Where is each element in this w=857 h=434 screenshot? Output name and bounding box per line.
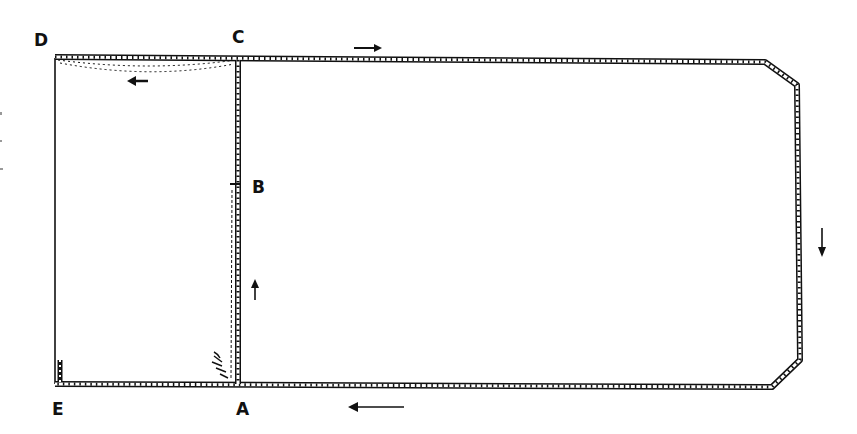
point-label-c: C xyxy=(232,27,244,47)
center-up-arrow-icon xyxy=(251,279,259,300)
stitch-diagram: D C B E A xyxy=(0,0,857,434)
dotted-curve-lower xyxy=(60,63,234,72)
point-label-b: B xyxy=(252,177,265,197)
top-left-arrow-icon xyxy=(127,76,148,86)
top-right-arrow-icon xyxy=(354,44,382,52)
bottom-left-arrow-icon xyxy=(348,402,404,412)
right-down-arrow-icon xyxy=(818,228,826,257)
dashed-stitch-line xyxy=(231,190,232,380)
rope-outline xyxy=(55,57,800,387)
point-label-e: E xyxy=(52,399,64,419)
frayed-end-a xyxy=(212,352,228,378)
point-label-d: D xyxy=(34,30,48,50)
edge-marks xyxy=(0,112,3,170)
point-label-a: A xyxy=(236,399,250,419)
